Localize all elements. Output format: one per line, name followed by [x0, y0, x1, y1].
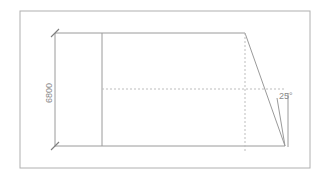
angle-label: 25°	[279, 91, 293, 101]
angle-leader-line	[277, 98, 285, 146]
cad-drawing-canvas: 6800 25°	[0, 0, 329, 179]
dimension-label: 6800	[44, 83, 54, 103]
drawing-svg: 6800 25°	[0, 0, 329, 179]
